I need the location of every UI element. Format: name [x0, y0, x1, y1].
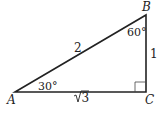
angle-label-b: 60° — [127, 26, 147, 39]
vertex-label-b: B — [141, 0, 151, 14]
angle-label-a: 30° — [38, 80, 58, 93]
side-label-ac-radicand: 3 — [82, 91, 90, 105]
right-angle-marker — [135, 82, 146, 92]
side-label-ab: 2 — [74, 41, 82, 55]
triangle-diagram: A B C 30° 60° 2 1 3 — [0, 0, 163, 115]
side-label-ac: 3 — [74, 91, 89, 105]
vertex-label-c: C — [145, 93, 154, 107]
vertex-label-a: A — [6, 93, 16, 107]
side-label-bc: 1 — [150, 47, 158, 61]
